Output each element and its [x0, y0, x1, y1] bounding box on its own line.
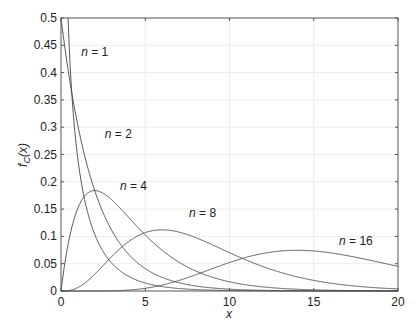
y-tick-label: 0.4	[40, 66, 57, 80]
y-tick-label: 0.1	[40, 229, 57, 243]
curve-labels: n = 1n = 2n = 4n = 8n = 16	[81, 45, 373, 247]
x-tick-label: 15	[307, 295, 321, 309]
curve-label: n = 4	[120, 179, 147, 193]
y-axis-label: fC(x)	[16, 143, 32, 167]
x-tick-label: 0	[58, 295, 65, 309]
curve-label: n = 1	[81, 45, 108, 59]
curve-label: n = 2	[105, 127, 132, 141]
y-tick-label: 0.2	[40, 175, 57, 189]
x-tick-label: 5	[142, 295, 149, 309]
y-tick-label: 0.45	[34, 38, 58, 52]
chi-square-pdf-chart: 0510152000.050.10.150.20.250.30.350.40.4…	[0, 0, 417, 333]
x-axis-label: x	[225, 307, 233, 321]
y-tick-label: 0.05	[34, 257, 58, 271]
curve-label: n = 8	[189, 206, 216, 220]
grid-lines	[61, 18, 398, 291]
y-tick-label: 0.25	[34, 148, 58, 162]
y-tick-label: 0.3	[40, 120, 57, 134]
svg-text:fC(x): fC(x)	[16, 143, 32, 167]
y-tick-label: 0.15	[34, 202, 58, 216]
y-tick-label: 0.35	[34, 93, 58, 107]
curve-label: n = 16	[339, 234, 373, 248]
x-tick-label: 20	[391, 295, 405, 309]
y-tick-label: 0	[50, 284, 57, 298]
y-tick-label: 0.5	[40, 11, 57, 25]
